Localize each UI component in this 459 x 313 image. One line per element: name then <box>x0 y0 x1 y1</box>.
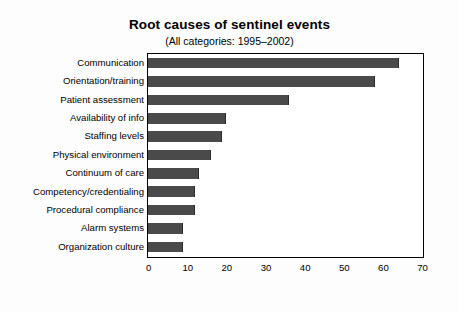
bar <box>148 205 195 216</box>
category-label: Competency/credentialing <box>33 183 144 201</box>
bar-row: Procedural compliance <box>148 201 423 219</box>
bar <box>148 95 289 106</box>
plot-area: CommunicationOrientation/trainingPatient… <box>148 54 423 257</box>
chart-figure: Root causes of sentinel events (All cate… <box>0 0 459 313</box>
bar <box>148 113 226 124</box>
x-tick-label: 40 <box>300 262 311 273</box>
bar <box>148 223 183 234</box>
bar <box>148 242 183 253</box>
x-axis-tick-labels: 010203040506070 <box>147 259 424 279</box>
bar-row: Continuum of care <box>148 164 423 182</box>
bar <box>148 58 399 69</box>
category-label: Orientation/training <box>63 72 144 90</box>
x-tick-label: 60 <box>378 262 389 273</box>
bar <box>148 76 375 87</box>
bar <box>148 168 199 179</box>
category-label: Continuum of care <box>66 164 144 182</box>
bar-row: Orientation/training <box>148 72 423 90</box>
category-label: Physical environment <box>53 146 144 164</box>
bar <box>148 150 211 161</box>
bar <box>148 131 222 142</box>
category-label: Alarm systems <box>81 219 144 237</box>
title-block: Root causes of sentinel events (All cate… <box>0 17 459 48</box>
bar-row: Patient assessment <box>148 91 423 109</box>
bar-row: Communication <box>148 54 423 72</box>
x-tick-label: 30 <box>261 262 272 273</box>
bar <box>148 186 195 197</box>
chart-subtitle: (All categories: 1995–2002) <box>0 34 459 48</box>
category-label: Availability of info <box>70 109 144 127</box>
x-tick-label: 70 <box>417 262 428 273</box>
bar-row: Alarm systems <box>148 219 423 237</box>
bar-row: Competency/credentialing <box>148 183 423 201</box>
bar-row: Staffing levels <box>148 127 423 145</box>
category-label: Procedural compliance <box>46 201 144 219</box>
plot-frame: CommunicationOrientation/trainingPatient… <box>147 53 424 258</box>
category-label: Organization culture <box>58 238 144 256</box>
category-label: Staffing levels <box>84 127 144 145</box>
x-tick-label: 50 <box>339 262 350 273</box>
x-tick-label: 20 <box>222 262 233 273</box>
category-label: Patient assessment <box>60 91 144 109</box>
bar-row: Organization culture <box>148 238 423 256</box>
bar-row: Physical environment <box>148 146 423 164</box>
bar-row: Availability of info <box>148 109 423 127</box>
x-tick-label: 10 <box>182 262 193 273</box>
chart-title: Root causes of sentinel events <box>0 17 459 33</box>
x-tick-label: 0 <box>146 262 151 273</box>
category-label: Communication <box>77 54 144 72</box>
